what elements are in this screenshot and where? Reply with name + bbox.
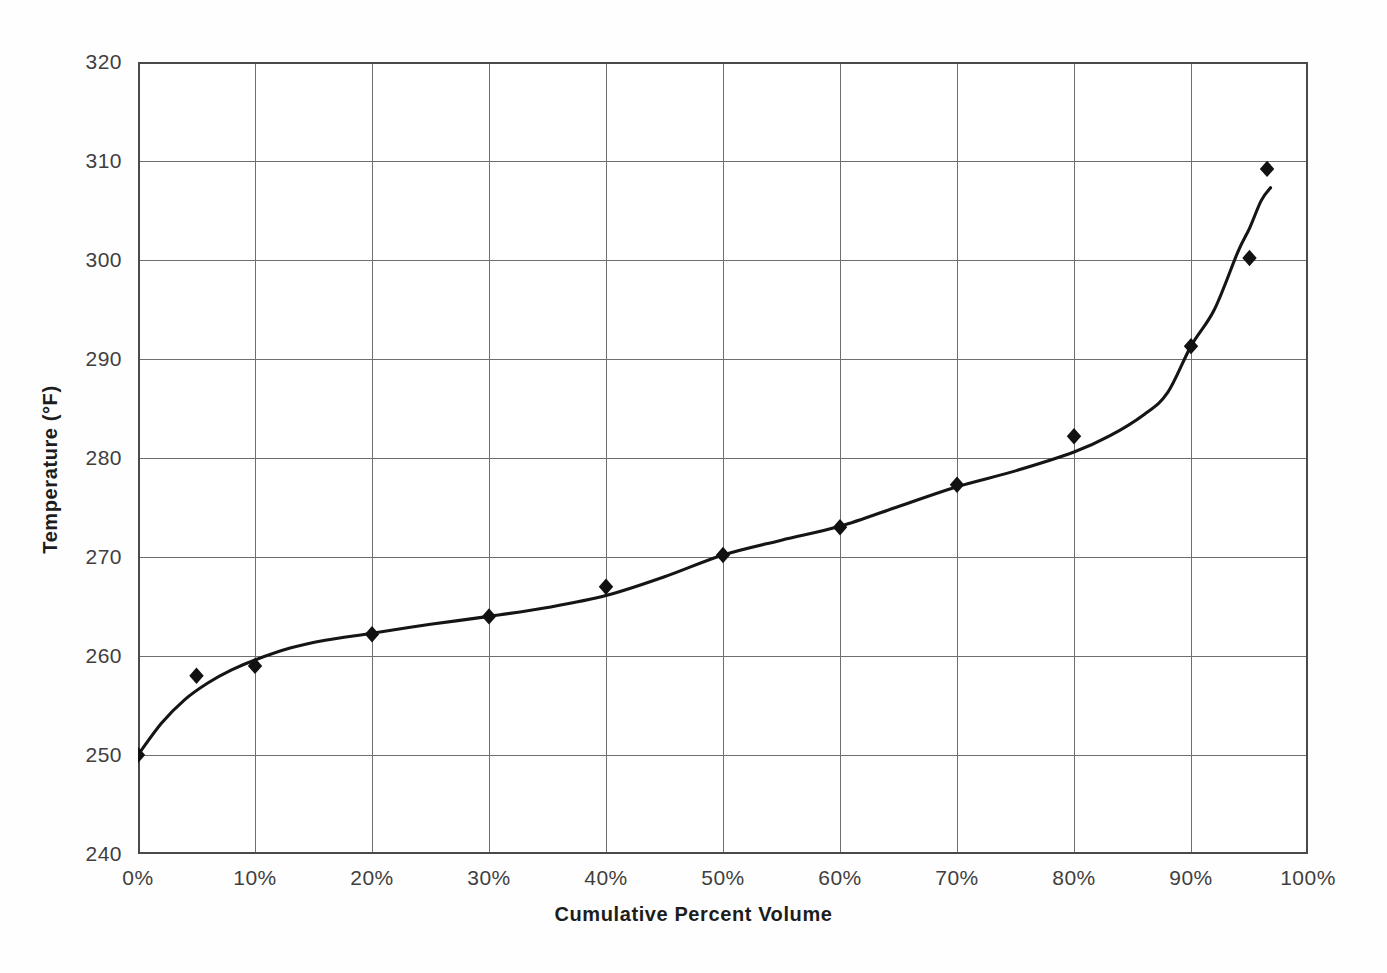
data-point-marker — [482, 608, 496, 624]
fitted-curve — [138, 188, 1271, 755]
curve-path — [138, 188, 1271, 755]
x-axis-tick-label: 90% — [1136, 866, 1246, 890]
y-axis-tick-label: 270 — [0, 545, 122, 569]
y-axis-tick-label: 240 — [0, 842, 122, 866]
y-axis-tick-label: 320 — [0, 50, 122, 74]
x-axis-tick-label: 0% — [83, 866, 193, 890]
x-axis-tick-label: 20% — [317, 866, 427, 890]
data-point-marker — [189, 668, 203, 684]
y-axis-tick-label: 260 — [0, 644, 122, 668]
data-point-marker — [365, 626, 379, 642]
gridlines — [138, 62, 1308, 854]
data-point-marker — [716, 547, 730, 563]
x-axis-tick-label: 40% — [551, 866, 661, 890]
data-point-marker — [1067, 428, 1081, 444]
x-axis-tick-label: 80% — [1019, 866, 1129, 890]
x-axis-title: Cumulative Percent Volume — [0, 903, 1387, 926]
y-axis-tick-label: 250 — [0, 743, 122, 767]
x-axis-tick-label: 30% — [434, 866, 544, 890]
data-points — [138, 161, 1274, 763]
data-point-marker — [1260, 161, 1274, 177]
x-axis-tick-label: 10% — [200, 866, 310, 890]
plot-area — [138, 62, 1308, 854]
data-point-marker — [1242, 250, 1256, 266]
y-axis-tick-label: 280 — [0, 446, 122, 470]
y-axis-tick-label: 310 — [0, 149, 122, 173]
y-axis-tick-label: 300 — [0, 248, 122, 272]
data-point-marker — [599, 579, 613, 595]
x-axis-tick-label: 60% — [785, 866, 895, 890]
data-point-marker — [950, 477, 964, 493]
x-axis-tick-label: 50% — [668, 866, 778, 890]
plot-canvas — [138, 62, 1308, 854]
x-axis-tick-label: 70% — [902, 866, 1012, 890]
data-point-marker — [248, 658, 262, 674]
chart-figure: Temperature (°F) Cumulative Percent Volu… — [0, 0, 1387, 973]
x-axis-tick-label: 100% — [1253, 866, 1363, 890]
data-point-marker — [833, 519, 847, 535]
y-axis-tick-label: 290 — [0, 347, 122, 371]
